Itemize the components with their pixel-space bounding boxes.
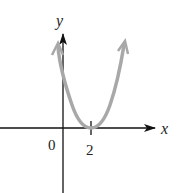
parabola-curve <box>58 45 124 128</box>
x-axis-label: x <box>160 120 168 137</box>
parabola-graph: y x 0 2 <box>0 0 183 193</box>
x-tick-label-2: 2 <box>86 142 94 158</box>
origin-label: 0 <box>48 137 56 153</box>
y-axis-label: y <box>54 12 64 30</box>
